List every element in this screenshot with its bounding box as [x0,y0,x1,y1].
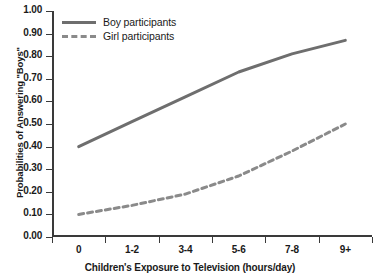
x-axis-title: Children's Exposure to Television (hours… [0,262,380,273]
x-tick [159,237,160,243]
legend-swatch-solid-line-icon [62,21,96,24]
x-tick [212,237,213,243]
series-lines [0,0,380,279]
x-tick-label: 7-8 [265,244,319,255]
legend-label-girl: Girl participants [103,30,174,42]
legend-item-girl: Girl participants [62,29,176,43]
series-line-girl [79,124,346,214]
x-tick-label: 0 [52,244,106,255]
x-tick [105,237,106,243]
legend-label-boy: Boy participants [103,16,176,28]
chart-legend: Boy participants Girl participants [62,15,176,43]
legend-item-boy: Boy participants [62,15,176,29]
chart-container: Probabilities of Answering "Boys" 1.000.… [0,0,380,279]
x-tick-label: 3-4 [158,244,212,255]
x-tick [52,237,53,243]
x-tick [319,237,320,243]
x-tick [265,237,266,243]
x-tick [372,237,373,243]
legend-swatch-dashed-line-icon [62,35,96,38]
x-tick-label: 9+ [318,244,372,255]
x-tick-label: 1-2 [105,244,159,255]
x-tick-label: 5-6 [212,244,266,255]
series-line-boy [79,40,346,146]
